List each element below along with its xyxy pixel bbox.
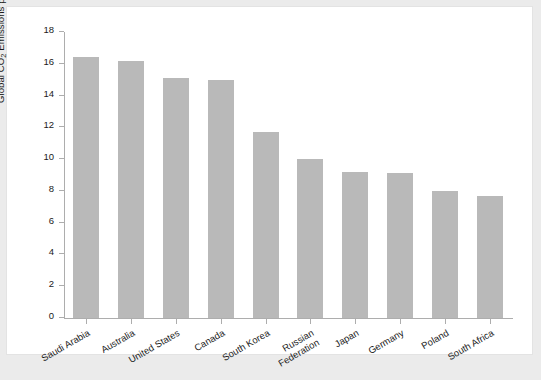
y-axis-title: Global CO2 Emissions per Capita (0, 0, 6, 103)
bar (118, 61, 144, 318)
bar (387, 173, 413, 318)
bar (253, 132, 279, 318)
bar (208, 80, 234, 318)
x-axis-tick-mark (131, 319, 132, 324)
x-axis-tick-mark (400, 319, 401, 324)
y-axis-tick-mark (59, 126, 64, 127)
y-axis-tick-mark (59, 222, 64, 223)
bar (163, 78, 189, 318)
y-axis-tick-mark (59, 190, 64, 191)
y-axis-tick-label: 18 (43, 25, 54, 35)
y-axis-tick-mark (59, 285, 64, 286)
y-axis-tick-label: 2 (49, 279, 54, 289)
x-axis-tick-label: Saudi Arabia (0, 327, 92, 380)
y-axis-tick-label: 14 (43, 89, 54, 99)
x-axis-tick-mark (355, 319, 356, 324)
y-axis-tick-label: 10 (43, 152, 54, 162)
y-axis-tick-label: 8 (49, 184, 54, 194)
y-axis-tick-mark (59, 95, 64, 96)
figure-panel: Global CO2 Emissions per Capita 02468101… (6, 6, 533, 355)
x-axis-tick-mark (310, 319, 311, 324)
plot-region (64, 32, 512, 318)
y-axis-tick-label: 0 (49, 311, 54, 321)
bar (297, 159, 323, 318)
y-axis-title-subscript: 2 (0, 53, 8, 57)
bar (477, 196, 503, 318)
y-axis-title-before: Global CO (0, 58, 6, 103)
bar (432, 191, 458, 318)
y-axis-tick-mark (59, 31, 64, 32)
y-axis-tick-label: 16 (43, 57, 54, 67)
x-axis-tick-mark (445, 319, 446, 324)
y-axis-tick-label: 12 (43, 120, 54, 130)
bar (73, 57, 99, 318)
y-axis-tick-mark (59, 63, 64, 64)
bar (342, 172, 368, 318)
y-axis-tick-label: 6 (49, 216, 54, 226)
x-axis-tick-mark (266, 319, 267, 324)
x-axis-tick-mark (86, 319, 87, 324)
y-axis-line (64, 32, 65, 319)
x-axis-tick-mark (490, 319, 491, 324)
y-axis-title-after: Emissions per Capita (0, 0, 6, 53)
y-axis-tick-mark (59, 253, 64, 254)
x-axis-tick-mark (176, 319, 177, 324)
y-axis-tick-mark (59, 158, 64, 159)
y-axis-tick-mark (59, 317, 64, 318)
x-axis-tick-mark (221, 319, 222, 324)
y-axis-tick-label: 4 (49, 247, 54, 257)
